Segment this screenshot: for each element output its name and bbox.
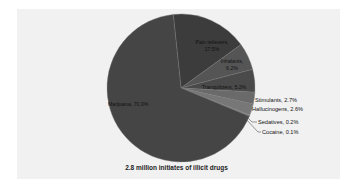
- label-hallucinogens: Hallucinogens, 2.6%: [252, 106, 303, 112]
- label-marijuana: Marijuana, 70.3%: [108, 101, 149, 107]
- label-tranquilizers: Tranquilizers, 5.2%: [202, 84, 247, 90]
- label-stimulants: Stimulants, 2.7%: [255, 97, 297, 103]
- label-inhalants-2: 6.2%: [226, 65, 238, 71]
- label-cocaine: Cocaine, 0.1%: [262, 129, 298, 135]
- label-inhalants-1: Inhalants,: [221, 58, 244, 64]
- label-sedatives: Sedatives, 0.2%: [258, 119, 298, 125]
- label-pain-relievers-1: Pain relievers,: [196, 39, 229, 45]
- label-pain-relievers-2: 17.5%: [205, 46, 220, 52]
- chart-title: 2.8 million initiates of illicit drugs: [0, 164, 353, 171]
